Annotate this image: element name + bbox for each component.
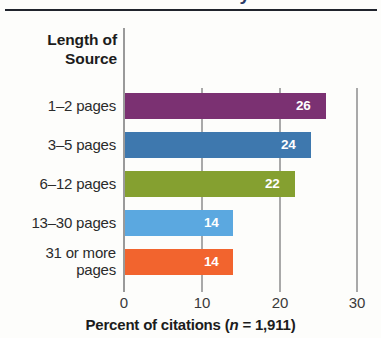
bar-value-1: 24 bbox=[281, 132, 296, 158]
x-tick-label-10: 10 bbox=[182, 294, 222, 311]
category-label-1: 3–5 pages bbox=[0, 136, 116, 153]
bar-value-2: 22 bbox=[265, 171, 280, 197]
y-axis-title: Length of Source bbox=[8, 30, 117, 68]
x-axis-title-suffix: = 1,911) bbox=[238, 316, 295, 333]
category-label-4-line-1: 31 or more bbox=[0, 244, 116, 261]
bar-value-3: 14 bbox=[204, 210, 219, 236]
x-axis-title-prefix: Percent of citations ( bbox=[86, 316, 230, 333]
cropped-title-text: Study bbox=[196, 0, 250, 5]
y-axis-title-line-1: Length of bbox=[8, 30, 117, 49]
category-label-2: 6–12 pages bbox=[0, 175, 116, 192]
gridline-30 bbox=[356, 88, 358, 292]
plot-area: Length of Source 1–2 pages 3–5 pages 6–1… bbox=[0, 16, 381, 338]
x-tick-label-0: 0 bbox=[104, 294, 144, 311]
category-label-4-line-2: pages bbox=[0, 261, 116, 278]
top-horizontal-rule bbox=[5, 9, 377, 11]
category-label-4: 31 or more pages bbox=[0, 244, 116, 278]
chart-figure: Study Length of Source 1–2 pages 3–5 pag… bbox=[0, 0, 381, 338]
y-axis-title-line-2: Source bbox=[8, 49, 117, 68]
x-axis-title: Percent of citations (n = 1,911) bbox=[0, 316, 381, 333]
category-label-0: 1–2 pages bbox=[0, 97, 116, 114]
category-label-3: 13–30 pages bbox=[0, 214, 116, 231]
x-tick-label-20: 20 bbox=[260, 294, 300, 311]
x-tick-label-30: 30 bbox=[337, 294, 377, 311]
bar-value-0: 26 bbox=[296, 93, 311, 119]
bar-value-4: 14 bbox=[204, 249, 219, 275]
